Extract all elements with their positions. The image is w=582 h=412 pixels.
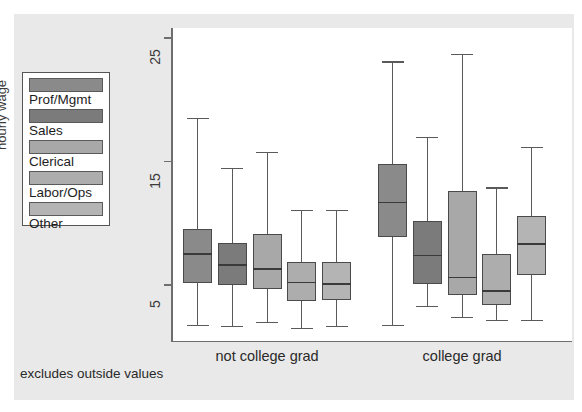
box-iqr (253, 234, 282, 288)
y-tick-25 (164, 37, 172, 39)
whisker-upper-stem (232, 168, 233, 243)
whisker-lower-stem (462, 295, 463, 317)
whisker-upper-cap (291, 210, 313, 211)
median-line (183, 253, 212, 255)
legend-item-label: Other (29, 216, 103, 231)
whisker-lower-cap (187, 325, 209, 326)
box-iqr (378, 164, 407, 237)
whisker-lower-cap (416, 306, 438, 307)
median-line (378, 202, 407, 204)
legend-item-label: Clerical (29, 154, 103, 169)
legend-items: Prof/MgmtSalesClericalLabor/OpsOther (29, 78, 103, 231)
chart-footnote: excludes outside values (20, 366, 163, 381)
legend-swatch-icon (29, 109, 103, 123)
whisker-lower-cap (221, 326, 243, 327)
legend-item-label: Labor/Ops (29, 185, 103, 200)
median-line (322, 283, 351, 285)
whisker-lower-cap (291, 328, 313, 329)
whisker-upper-stem (531, 147, 532, 216)
box-iqr (413, 221, 442, 284)
x-group-label-college-grad: college grad (372, 348, 552, 364)
y-tick-label-5: 5 (147, 284, 163, 324)
whisker-upper-stem (301, 210, 302, 262)
median-line (218, 264, 247, 266)
whisker-upper-stem (267, 152, 268, 235)
whisker-lower-stem (427, 284, 428, 306)
legend-item-labor-ops: Labor/Ops (29, 171, 103, 200)
whisker-upper-cap (416, 137, 438, 138)
whisker-lower-cap (521, 320, 543, 321)
whisker-upper-stem (427, 137, 428, 221)
whisker-upper-cap (221, 168, 243, 169)
box-iqr (448, 191, 477, 295)
legend-swatch-icon (29, 171, 103, 185)
whisker-lower-stem (267, 289, 268, 322)
whisker-upper-cap (486, 187, 508, 188)
whisker-lower-cap (486, 320, 508, 321)
whisker-lower-stem (531, 275, 532, 319)
median-line (448, 277, 477, 279)
whisker-upper-cap (187, 118, 209, 119)
whisker-lower-cap (326, 326, 348, 327)
legend-swatch-icon (29, 202, 103, 216)
y-tick-15 (164, 161, 172, 163)
y-axis-title: hourly wage (0, 80, 9, 150)
whisker-upper-stem (336, 210, 337, 262)
box-iqr (183, 229, 212, 282)
legend-item-other: Other (29, 202, 103, 231)
legend-item-sales: Sales (29, 109, 103, 138)
x-group-label-not-college-grad: not college grad (177, 348, 357, 364)
whisker-upper-stem (197, 118, 198, 229)
legend-item-label: Prof/Mgmt (29, 92, 103, 107)
box-iqr (482, 254, 511, 305)
median-line (413, 255, 442, 257)
whisker-lower-stem (232, 285, 233, 326)
legend-box: Prof/MgmtSalesClericalLabor/OpsOther (22, 72, 110, 226)
legend-swatch-icon (29, 140, 103, 154)
median-line (517, 243, 546, 245)
y-tick-label-15: 15 (147, 161, 163, 201)
box-iqr (322, 262, 351, 300)
median-line (482, 290, 511, 292)
whisker-lower-stem (336, 300, 337, 326)
whisker-upper-cap (451, 54, 473, 55)
y-axis-line (171, 28, 173, 342)
legend-item-clerical: Clerical (29, 140, 103, 169)
whisker-upper-stem (496, 187, 497, 254)
whisker-upper-stem (462, 54, 463, 191)
y-tick-5 (164, 284, 172, 286)
whisker-lower-cap (256, 322, 278, 323)
box-iqr (517, 216, 546, 275)
whisker-lower-stem (197, 283, 198, 325)
y-tick-label-25: 25 (147, 37, 163, 77)
whisker-upper-cap (256, 152, 278, 153)
whisker-lower-cap (451, 317, 473, 318)
whisker-lower-stem (392, 237, 393, 325)
whisker-upper-cap (382, 61, 404, 62)
legend-item-label: Sales (29, 123, 103, 138)
whisker-upper-stem (392, 61, 393, 164)
median-line (287, 282, 316, 284)
whisker-upper-cap (521, 147, 543, 148)
whisker-upper-cap (326, 210, 348, 211)
legend-swatch-icon (29, 78, 103, 92)
whisker-lower-stem (301, 301, 302, 328)
whisker-lower-stem (496, 305, 497, 320)
chart-root: 25155 hourly wage Prof/MgmtSalesClerical… (0, 0, 582, 412)
legend-item-prof-mgmt: Prof/Mgmt (29, 78, 103, 107)
median-line (253, 268, 282, 270)
whisker-lower-cap (382, 325, 404, 326)
